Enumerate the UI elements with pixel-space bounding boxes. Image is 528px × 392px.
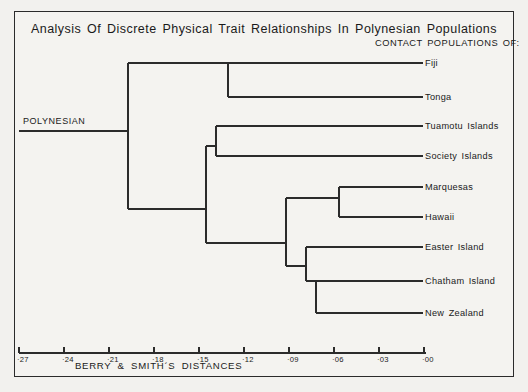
axis-tick-label-024: ·24	[62, 355, 74, 364]
axis-tick-label-group: ·27 ·24 ·21 ·18 ·15 ·12 ·09 ·06 ·03 ·00	[15, 12, 513, 376]
axis-tick-label-003: ·03	[377, 355, 389, 364]
axis-tick-label-000: ·00	[422, 355, 434, 364]
axis-tick-label-012: ·12	[242, 355, 254, 364]
axis-tick-label-006: ·06	[332, 355, 344, 364]
axis-tick-label-009: ·09	[287, 355, 299, 364]
figure-frame: Analysis Of Discrete Physical Trait Rela…	[14, 11, 514, 377]
axis-title: BERRY & SMITH´S DISTANCES	[75, 360, 242, 371]
axis-tick-label-027: ·27	[17, 355, 29, 364]
